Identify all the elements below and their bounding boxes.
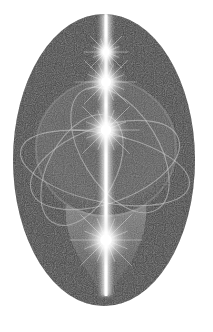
star-bottom-icon bbox=[70, 204, 143, 277]
mystic-oval-illustration bbox=[0, 0, 213, 332]
star-center-icon bbox=[72, 96, 139, 163]
artwork bbox=[0, 0, 213, 332]
